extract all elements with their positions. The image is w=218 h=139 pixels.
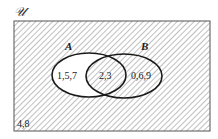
region-intersection-values: 2,3 [99,70,112,81]
venn-diagram: 𝒰 A B 1,5,7 2,3 0,6,9 4,8 [0,0,218,139]
region-a-only-values: 1,5,7 [57,70,77,81]
set-b-label: B [140,40,148,52]
region-b-only-values: 0,6,9 [131,70,151,81]
universe-label: 𝒰 [14,4,30,19]
region-outside-values: 4,8 [17,118,30,129]
set-a-label: A [64,40,72,52]
